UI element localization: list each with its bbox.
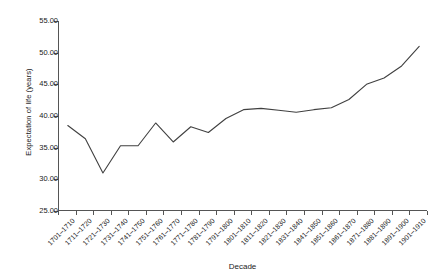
- x-tick-mark: [269, 211, 270, 215]
- x-tick-mark: [111, 211, 112, 215]
- y-tick-label: 35.00: [12, 144, 58, 152]
- x-axis-title: Decade: [58, 262, 427, 272]
- x-tick-mark: [286, 211, 287, 215]
- x-tick-mark: [163, 211, 164, 215]
- x-tick-mark: [76, 211, 77, 215]
- y-tick-label: 40.00: [12, 112, 58, 120]
- x-tick-mark: [216, 211, 217, 215]
- x-tick-mark: [374, 211, 375, 215]
- x-tick-mark: [409, 211, 410, 215]
- y-tick-label: 45.00: [12, 80, 58, 88]
- x-tick-mark: [357, 211, 358, 215]
- x-tick-mark: [93, 211, 94, 215]
- x-tick-mark: [392, 211, 393, 215]
- x-tick-mark: [339, 211, 340, 215]
- x-tick-mark: [128, 211, 129, 215]
- x-tick-mark: [427, 211, 428, 215]
- x-tick-mark: [58, 211, 59, 215]
- data-line-series: [59, 21, 428, 211]
- x-tick-mark: [322, 211, 323, 215]
- x-tick-mark: [304, 211, 305, 215]
- y-tick-label: 55.00: [12, 17, 58, 25]
- plot-area: [58, 21, 427, 211]
- x-tick-mark: [146, 211, 147, 215]
- x-tick-mark: [251, 211, 252, 215]
- y-tick-label: 30.00: [12, 175, 58, 183]
- x-tick-mark: [234, 211, 235, 215]
- y-tick-label: 25.00: [12, 207, 58, 215]
- y-tick-label: 50.00: [12, 49, 58, 57]
- x-tick-mark: [181, 211, 182, 215]
- life-expectancy-line-chart: Expectation of life (years) 25.0030.0035…: [0, 0, 447, 280]
- x-tick-mark: [199, 211, 200, 215]
